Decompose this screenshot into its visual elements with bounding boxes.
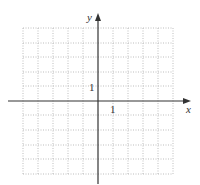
y-axis [95,13,101,184]
y-axis-label: y [86,11,92,23]
y-tick-label: 1 [89,81,95,93]
coordinate-plane: x y 1 1 [0,0,200,185]
x-tick-label: 1 [110,103,116,115]
x-axis [8,98,191,104]
y-axis-arrow-icon [95,13,101,21]
x-axis-label: x [185,103,191,115]
